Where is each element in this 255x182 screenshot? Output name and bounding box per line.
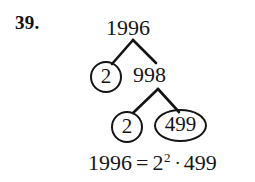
equation-multiplication-dot: · [174, 152, 180, 173]
tree-node-factor-499: 499 [154, 109, 207, 142]
factor-tree-figure: 39. 1996 2 998 2 499 1996=22·499 [0, 0, 255, 182]
equation-base: 2 [152, 150, 163, 175]
equation-factor: 499 [184, 150, 217, 175]
tree-node-998: 998 [133, 64, 166, 86]
tree-node-factor-499-label: 499 [165, 114, 197, 135]
tree-node-factor-two-upper: 2 [90, 61, 122, 93]
equation-left-operand: 1996 [88, 150, 132, 175]
tree-node-factor-two-lower: 2 [111, 111, 143, 143]
tree-node-root: 1996 [106, 17, 150, 39]
equation-equals-sign: = [136, 150, 148, 175]
branch-root-right [133, 40, 156, 63]
factorization-equation: 1996=22·499 [88, 152, 217, 174]
branch-mid-left [133, 89, 158, 113]
branch-root-left [112, 40, 133, 64]
equation-exponent: 2 [164, 150, 171, 165]
tree-node-factor-two-lower-label: 2 [122, 116, 133, 137]
problem-number: 39. [15, 13, 39, 32]
tree-node-factor-two-upper-label: 2 [101, 66, 112, 87]
